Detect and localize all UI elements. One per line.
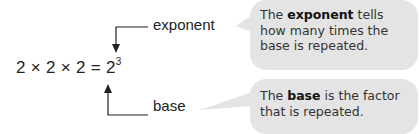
base-callout: The base is the factor that is repeated.	[250, 79, 418, 134]
callout-term: base	[287, 88, 320, 103]
equation: 2 × 2 × 2 = 23	[16, 57, 122, 78]
callout-term: exponent	[287, 7, 353, 22]
callout-text: The	[260, 88, 287, 103]
base-label: base	[153, 97, 186, 114]
callout-text: The	[260, 7, 287, 22]
equation-exponent: 3	[116, 56, 122, 67]
equation-base: 2 × 2 × 2 = 2	[16, 58, 116, 77]
exponent-label: exponent	[153, 16, 215, 33]
exponent-callout: The exponent tells how many times the ba…	[250, 0, 418, 70]
